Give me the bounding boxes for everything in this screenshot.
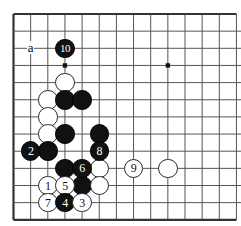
- point-a-label: a: [27, 41, 35, 54]
- stone-white-plain-6[interactable]: [158, 159, 178, 179]
- stone-move-10[interactable]: 10: [55, 39, 75, 59]
- star-point: [166, 63, 170, 67]
- stone-black-plain-2[interactable]: [72, 90, 92, 110]
- stone-move-number: 2: [28, 145, 34, 157]
- star-point: [63, 63, 67, 67]
- stone-move-number: 7: [45, 197, 51, 209]
- stone-move-number: 3: [79, 197, 85, 209]
- stone-move-3[interactable]: 3: [72, 193, 92, 213]
- stone-move-number: 8: [97, 145, 103, 157]
- stone-move-number: 9: [131, 162, 137, 174]
- stone-white-plain-7[interactable]: [90, 176, 110, 196]
- stone-move-number: 6: [79, 162, 85, 174]
- stone-move-number: 1: [45, 180, 51, 192]
- stone-move-6[interactable]: 6: [72, 159, 92, 179]
- stone-black-plain-3[interactable]: [55, 124, 75, 144]
- stone-move-8[interactable]: 8: [90, 141, 110, 161]
- stone-move-number: 10: [60, 43, 70, 54]
- board-grid: [0, 0, 241, 226]
- go-board-diagram: 10286915743 a: [0, 0, 241, 226]
- stone-move-number: 4: [62, 197, 68, 209]
- stone-move-number: 5: [62, 180, 68, 192]
- stone-black-plain-5[interactable]: [38, 141, 58, 161]
